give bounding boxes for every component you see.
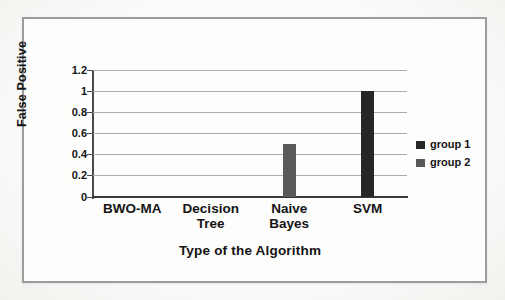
y-tick-label: 0.4 [47,149,87,160]
y-axis-line [92,70,94,199]
chart-frame: False Positive 00.20.40.60.811.2 BWO-MAD… [22,17,487,283]
legend-item-group-1: group 1 [416,139,470,150]
x-axis-title: Type of the Algorithm [93,243,407,258]
x-category-label-svm: SVM [329,201,408,231]
y-tick-mark [87,70,92,71]
bar-svm [361,91,374,197]
y-tick-mark [87,133,92,134]
x-category-label-bwo-ma: BWO-MA [93,201,172,231]
gridline [93,154,407,155]
y-axis-title: False Positive [12,39,32,129]
y-tick-label: 0.8 [47,107,87,118]
legend-swatch-group-2 [416,159,425,167]
legend-swatch-group-1 [416,141,425,149]
x-category-label-naive-bayes: Naive Bayes [250,201,329,231]
figure-photo: False Positive 00.20.40.60.811.2 BWO-MAD… [0,0,505,300]
y-axis-title-text: False Positive [15,41,29,127]
y-tick-label: 0.2 [47,170,87,181]
legend-label-group-1: group 1 [430,139,470,150]
y-tick-label: 0 [47,192,87,203]
legend: group 1group 2 [416,139,470,168]
gridline [93,70,407,71]
gridline [93,112,407,113]
y-tick-label: 0.6 [47,128,87,139]
x-axis-category-labels: BWO-MADecision TreeNaive BayesSVM [93,201,407,231]
x-category-label-decision-tree: Decision Tree [172,201,251,231]
y-tick-label: 1.2 [47,65,87,76]
gridline [93,133,407,134]
y-tick-mark [87,112,92,113]
gridline [93,175,407,176]
y-tick-mark [87,154,92,155]
plot-area: 00.20.40.60.811.2 [93,70,407,197]
y-tick-mark [87,197,92,198]
gridline [93,91,407,92]
legend-label-group-2: group 2 [430,157,470,168]
y-tick-mark [87,175,92,176]
bar-naive-bayes [283,144,296,197]
y-tick-label: 1 [47,86,87,97]
y-tick-mark [87,91,92,92]
legend-item-group-2: group 2 [416,157,470,168]
